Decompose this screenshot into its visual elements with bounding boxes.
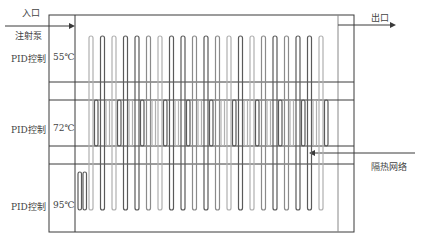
zone-1-controller: PID控制 [11,52,46,65]
outlet-arrow-head [390,22,396,28]
outlet-label: 出口 [371,11,389,24]
zone-3-controller: PID控制 [11,200,46,213]
zone-2-temp: 72℃ [53,123,75,133]
inlet-label: 入口 [22,6,40,19]
zone-3-temp: 95℃ [53,200,75,210]
insulation-label: 隔热网络 [371,160,407,173]
inlet-arrow-head [69,23,75,29]
capillary-tubes [78,36,328,210]
zone-2-controller: PID控制 [11,123,46,136]
zone-1-temp: 55℃ [53,52,75,62]
pump-label: 注射泵 [15,29,42,42]
